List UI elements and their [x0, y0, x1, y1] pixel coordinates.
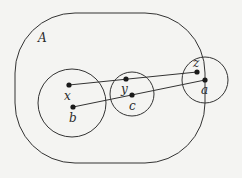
diagram-canvas: A xbycza	[0, 0, 242, 178]
circle-left	[38, 69, 106, 137]
point-c	[129, 92, 134, 97]
edge-x-z	[69, 72, 197, 85]
point-b	[70, 104, 75, 109]
point-label-c: c	[129, 99, 136, 113]
edge-b-a	[73, 80, 205, 107]
point-x	[66, 82, 71, 87]
diagram-svg: A xbycza	[0, 0, 242, 178]
point-label-z: z	[192, 56, 200, 70]
point-z	[194, 69, 199, 74]
point-y	[123, 76, 128, 81]
point-label-a: a	[201, 83, 208, 97]
point-label-b: b	[69, 111, 77, 125]
region-a-label: A	[37, 31, 47, 45]
point-label-y: y	[120, 82, 128, 96]
point-label-x: x	[64, 89, 71, 103]
point-a	[202, 77, 207, 82]
